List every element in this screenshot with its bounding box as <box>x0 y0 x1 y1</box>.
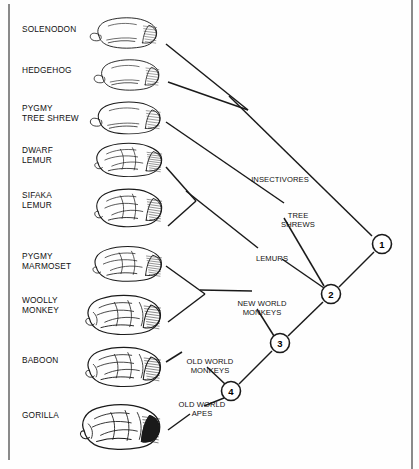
node-4-number: 4 <box>228 386 234 397</box>
node-2-number: 2 <box>328 289 333 300</box>
node-1[interactable]: 1 <box>373 235 392 254</box>
branch-hedgehog <box>168 82 248 110</box>
branch-woolly-monkey <box>168 294 205 322</box>
taxon-label-sifaka-lemur: SIFAKA LEMUR <box>22 190 52 210</box>
taxon-label-hedgehog: HEDGEHOG <box>22 65 72 75</box>
taxon-label-baboon: BABOON <box>22 355 58 365</box>
taxon-label-solenodon: SOLENODON <box>22 24 76 34</box>
clade-label-tree-shrews: TREE SHREWS <box>258 211 338 230</box>
taxon-label-gorilla: GORILLA <box>22 410 59 420</box>
branch-node2-node1 <box>339 252 374 287</box>
clade-label-new-world-monkeys: NEW WORLD MONKEYS <box>222 299 302 318</box>
clade-label-lemurs: LEMURS <box>232 254 312 263</box>
taxon-label-pygmy-tree-shrew: PYGMY TREE SHREW <box>22 103 79 123</box>
node-4[interactable]: 4 <box>222 382 241 401</box>
cladogram-figure: 1234 SOLENODONHEDGEHOGPYGMY TREE SHREWDW… <box>0 0 419 469</box>
clade-label-old-world-monkeys: OLD WORLD MONKEYS <box>170 357 250 376</box>
taxon-label-pygmy-marmoset: PYGMY MARMOSET <box>22 251 71 271</box>
taxon-label-dwarf-lemur: DWARF LEMUR <box>22 145 53 165</box>
clade-label-old-world-apes: OLD WORLD APES <box>162 400 242 419</box>
branch-nwm-label <box>200 290 252 291</box>
branch-lemurs <box>186 191 258 248</box>
taxon-label-woolly-monkey: WOOLLY MONKEY <box>22 295 59 315</box>
node-3[interactable]: 3 <box>271 334 290 353</box>
node-1-number: 1 <box>379 239 385 250</box>
branch-pygmy-marmoset <box>166 266 205 294</box>
branch-sifaka-lemur <box>168 201 196 226</box>
branch-tree-shrew <box>166 122 284 203</box>
clade-label-insectivores: INSECTIVORES <box>240 175 320 184</box>
node-3-number: 3 <box>277 338 282 349</box>
node-2[interactable]: 2 <box>322 285 341 304</box>
branch-solenodon <box>166 44 248 110</box>
